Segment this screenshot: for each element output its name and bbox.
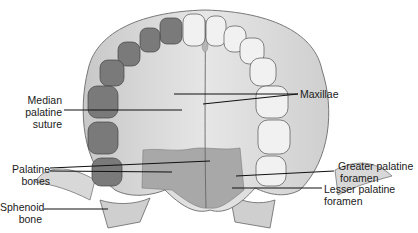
- label-lesser-palatine-foramen: Lesser palatine foramen: [324, 183, 395, 207]
- label-line: bones: [4, 175, 50, 187]
- label-maxillae: Maxillae: [300, 88, 339, 100]
- label-line: palatine: [4, 106, 62, 118]
- label-palatine-bones: Palatine bones: [4, 163, 50, 187]
- label-greater-palatine-foramen: Greater palatine foramen: [338, 160, 413, 184]
- label-line: foramen: [324, 195, 395, 207]
- label-line: Sphenoid: [0, 201, 42, 213]
- label-line: Palatine: [4, 163, 50, 175]
- label-line: Maxillae: [300, 88, 339, 100]
- label-median-palatine-suture: Median palatine suture: [4, 94, 62, 130]
- label-sphenoid-bone: Sphenoid bone: [0, 201, 42, 225]
- label-line: Greater palatine: [338, 160, 413, 172]
- label-line: Lesser palatine: [324, 183, 395, 195]
- label-line: Median: [4, 94, 62, 106]
- label-line: bone: [0, 213, 42, 225]
- label-line: suture: [4, 118, 62, 130]
